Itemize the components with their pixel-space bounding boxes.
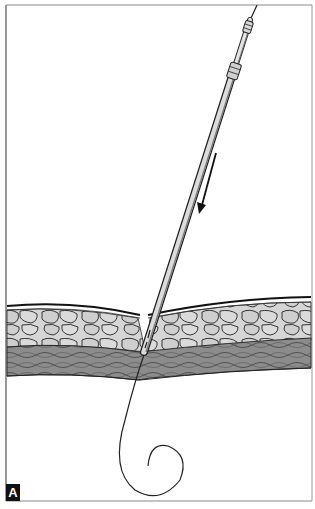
needle-hub-lower bbox=[226, 62, 241, 81]
needle-hub-upper bbox=[242, 20, 253, 34]
figure-frame bbox=[6, 5, 312, 501]
needle-guidewire-illustration bbox=[0, 0, 315, 509]
panel-label: A bbox=[6, 484, 20, 501]
